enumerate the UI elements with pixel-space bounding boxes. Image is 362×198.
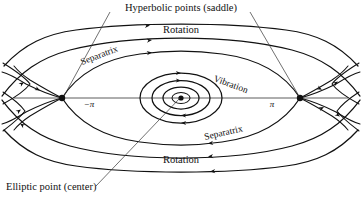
label-rotation-top: Rotation	[163, 24, 200, 35]
arrow-left-incoming-upper	[34, 86, 41, 92]
leader-elliptic-point	[96, 98, 180, 186]
saddle-right-branch-lower-right	[300, 98, 348, 130]
label-elliptic-point: Elliptic point (center)	[6, 181, 97, 193]
separatrix-lower-curve	[62, 98, 300, 145]
phase-portrait-figure: Hyperbolic points (saddle) Rotation Sepa…	[0, 0, 362, 198]
label-rotation-bottom: Rotation	[163, 154, 200, 165]
saddle-right-branch-upper-right	[300, 66, 348, 98]
leader-hyperbolic-right	[250, 12, 299, 96]
phase-portrait-canvas: Hyperbolic points (saddle) Rotation Sepa…	[0, 0, 362, 198]
axis-tick-right-pi: π	[270, 99, 275, 109]
elliptic-center-point	[178, 95, 183, 100]
axis-tick-left-pi: −π	[84, 99, 95, 109]
saddle-left-branch-upper-left	[14, 66, 62, 98]
arrow-left-outgoing-lower	[19, 122, 26, 128]
label-vibration: Vibration	[212, 73, 249, 95]
saddle-point-right	[297, 95, 303, 101]
label-hyperbolic-points: Hyperbolic points (saddle)	[125, 2, 237, 14]
arrow-left-turnaround-lower	[16, 108, 23, 114]
orbit-rotation-lower-outer	[4, 130, 358, 172]
